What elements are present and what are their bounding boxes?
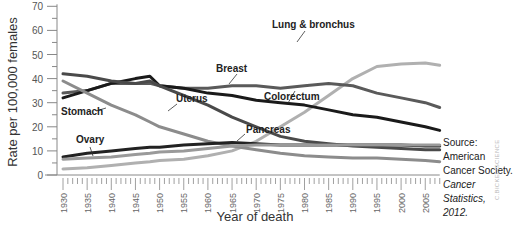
series-lines: [63, 63, 440, 169]
line-chart: 0102030405060701930193519401945195019551…: [0, 0, 516, 228]
label-stomach: Stomach: [61, 106, 103, 117]
x-tick-label: 1955: [179, 193, 189, 213]
y-tick-label: 30: [32, 98, 44, 109]
label-uterus: Uterus: [176, 93, 208, 104]
source-note: Source: American Cancer Society. Cancer …: [443, 136, 516, 220]
x-tick-label: 1940: [107, 193, 117, 213]
label-breast: Breast: [216, 63, 248, 74]
x-tick-label: 1950: [155, 193, 165, 213]
x-tick-label: 1990: [348, 193, 358, 213]
x-tick-label: 2005: [421, 193, 431, 213]
x-axis-label: Year of death: [217, 209, 294, 224]
x-tick-label: 1935: [83, 193, 93, 213]
x-tick-label: 1980: [300, 193, 310, 213]
label-colorectum: Colorectum: [264, 91, 320, 102]
series-breast: [63, 83, 440, 107]
y-tick-label: 50: [32, 50, 44, 61]
x-tick-label: 1930: [59, 193, 69, 213]
y-tick-label: 10: [32, 146, 44, 157]
x-tick-label: 1960: [203, 193, 213, 213]
x-tick-label: 1945: [131, 193, 141, 213]
label-lung-bronchus: Lung & bronchus: [272, 19, 355, 30]
image-credit: C.BICKEL/SCIENCE: [494, 140, 500, 200]
y-tick-label: 60: [32, 25, 44, 36]
source-line-1: Source: American: [443, 136, 516, 164]
x-tick-label: 2000: [397, 193, 407, 213]
series-lung-bronchus: [63, 63, 440, 169]
x-tick-label: 1995: [372, 193, 382, 213]
y-tick-label: 40: [32, 74, 44, 85]
label-ovary: Ovary: [76, 134, 105, 145]
y-tick-label: 70: [32, 1, 44, 12]
y-tick-label: 20: [32, 122, 44, 133]
label-pancreas: Pancreas: [246, 124, 291, 135]
source-line-3: Cancer Statistics,: [443, 178, 516, 206]
source-line-4: 2012.: [443, 206, 516, 220]
source-line-2: Cancer Society.: [443, 164, 516, 178]
y-tick-label: 0: [37, 170, 43, 181]
x-tick-label: 1985: [324, 193, 334, 213]
y-axis-label: Rate per 100,000 females: [5, 17, 20, 167]
